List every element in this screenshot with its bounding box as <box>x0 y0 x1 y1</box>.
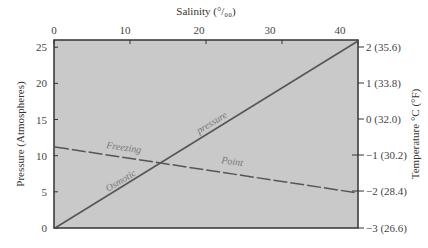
right-tick-label: 0 (32.0) <box>366 113 401 126</box>
left-tick-label: 25 <box>36 41 48 53</box>
right-tick-label: −1 (30.2) <box>366 149 407 162</box>
right-tick-label: −2 (28.4) <box>366 185 407 198</box>
top-tick-label: 40 <box>335 24 347 36</box>
right-tick-label: 2 (35.6) <box>366 41 401 54</box>
top-tick-label: 30 <box>265 24 277 36</box>
top-axis-title: Salinity (°/₀₀) <box>176 5 236 18</box>
left-tick-label: 15 <box>36 114 48 126</box>
right-tick-label: 1 (33.8) <box>366 77 401 90</box>
left-tick-label: 0 <box>42 222 48 234</box>
top-tick-label: 10 <box>120 24 132 36</box>
right-axis-title: Temperature °C (°F) <box>409 88 422 179</box>
top-tick-label: 0 <box>51 24 57 36</box>
chart: Salinity (°/₀₀) 0 10 20 30 40 0 5 10 15 … <box>0 0 428 248</box>
left-axis-title: Pressure (Atmospheres) <box>14 81 27 187</box>
right-tick-label: −3 (26.6) <box>366 222 407 235</box>
right-axis-ticks: 2 (35.6) 1 (33.8) 0 (32.0) −1 (30.2) −2 … <box>352 41 407 235</box>
top-tick-label: 20 <box>194 24 206 36</box>
left-tick-label: 10 <box>36 150 48 162</box>
left-tick-label: 5 <box>42 186 48 198</box>
left-tick-label: 20 <box>36 77 48 89</box>
